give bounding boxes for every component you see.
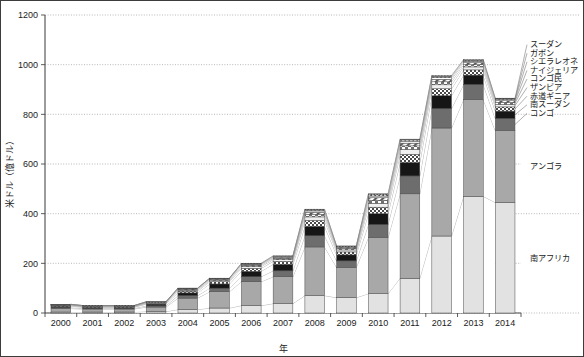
- bar-segment: [464, 75, 484, 84]
- bar-segment: [210, 308, 230, 313]
- bar-segment: [400, 139, 420, 140]
- y-axis-title: 米ドル（億ドル）: [4, 136, 15, 208]
- bar-segment: [368, 294, 388, 313]
- x-tick-label: 2014: [495, 318, 515, 328]
- x-tick-label: 2011: [400, 318, 419, 328]
- y-tick-label: 600: [23, 159, 38, 169]
- bar-segment: [464, 196, 484, 313]
- bar-segment: [464, 67, 484, 70]
- bar-segment: [495, 111, 515, 118]
- y-tick-label: 800: [23, 110, 38, 120]
- inline-series-label[interactable]: 南アフリカ: [530, 253, 570, 263]
- bar-segment: [305, 209, 325, 210]
- y-tick-label: 1000: [18, 60, 38, 70]
- bar-segment: [432, 96, 452, 109]
- bar-segment: [83, 309, 103, 312]
- bar-segment: [432, 79, 452, 81]
- bar-segment: [368, 214, 388, 225]
- bar-segment: [305, 214, 325, 216]
- x-axis-tick-labels: 2000200120022003200420052006200720082009…: [51, 318, 515, 328]
- legend-label[interactable]: コンゴ: [530, 108, 554, 118]
- x-axis-tick-marks: [45, 313, 521, 317]
- bar-segment: [495, 98, 515, 99]
- bar-segment: [432, 78, 452, 80]
- x-tick-label: 2013: [463, 318, 483, 328]
- bar-segment: [432, 236, 452, 313]
- legend-label[interactable]: コンゴ民: [530, 73, 562, 83]
- x-tick-label: 2003: [146, 318, 166, 328]
- bar-segment: [495, 202, 515, 313]
- bar-segment: [495, 119, 515, 131]
- legend: スーダンガボンシエラレオネナイジェリアコンゴ民ザンビア赤道ギニア南スーダンコンゴ: [515, 39, 578, 125]
- bar-segment: [337, 298, 357, 313]
- bar-segment: [368, 200, 388, 203]
- y-axis-tick-marks: [41, 15, 45, 313]
- x-tick-label: 2012: [432, 318, 452, 328]
- bar-segment: [464, 63, 484, 65]
- legend-label[interactable]: 南スーダン: [530, 99, 570, 109]
- x-axis-title: 年: [279, 343, 288, 354]
- chart-canvas: 020040060080010001200 200020012002200320…: [0, 0, 584, 357]
- bar-segment: [241, 306, 261, 313]
- bar-segment: [432, 82, 452, 85]
- bar-segment: [178, 291, 198, 293]
- bar-segment: [241, 277, 261, 282]
- bar-segment: [464, 70, 484, 75]
- legend-label[interactable]: 赤道ギニア: [530, 91, 570, 101]
- connector-band: [102, 309, 114, 312]
- bar-segment: [337, 246, 357, 247]
- bar-segment: [51, 309, 71, 312]
- y-tick-label: 400: [23, 209, 38, 219]
- bar-segment: [305, 226, 325, 235]
- bar-segment: [146, 304, 166, 306]
- bar-segment: [273, 304, 293, 313]
- bar-segment: [83, 306, 103, 307]
- legend-label[interactable]: ガボン: [530, 48, 554, 58]
- bar-segment: [273, 271, 293, 277]
- bar-segment: [495, 130, 515, 202]
- bar-segment: [464, 85, 484, 100]
- x-tick-label: 2007: [273, 318, 293, 328]
- bar-segment: [178, 293, 198, 296]
- bar-segment: [305, 296, 325, 313]
- bar-segment: [400, 278, 420, 313]
- y-tick-label: 1200: [18, 10, 38, 20]
- x-tick-label: 2004: [178, 318, 198, 328]
- y-axis-tick-labels: 020040060080010001200: [18, 10, 38, 318]
- bar-segment: [400, 146, 420, 149]
- bar-segment: [146, 302, 166, 303]
- bar-segment: [178, 296, 198, 298]
- bar-segment: [178, 298, 198, 309]
- bar-segment: [432, 89, 452, 96]
- connector-band: [483, 196, 495, 313]
- x-tick-label: 2005: [210, 318, 230, 328]
- bar-segment: [305, 212, 325, 214]
- bar-segment: [241, 271, 261, 276]
- bar-segment: [400, 141, 420, 143]
- bar-segment: [178, 288, 198, 289]
- bar-segment: [337, 252, 357, 255]
- bar-segment: [273, 256, 293, 257]
- bar-segment: [273, 264, 293, 270]
- bar-segment: [495, 101, 515, 103]
- bar-segment: [432, 76, 452, 77]
- bar-segment: [337, 250, 357, 252]
- bar-segment: [51, 304, 71, 305]
- x-tick-label: 2000: [51, 318, 71, 328]
- bar-segment: [241, 263, 261, 264]
- bar-segment: [210, 288, 230, 291]
- legend-label[interactable]: スーダン: [530, 39, 562, 49]
- bar-segment: [432, 128, 452, 236]
- stacked-bar-chart: 020040060080010001200 200020012002200320…: [0, 0, 584, 357]
- bar-segment: [241, 282, 261, 306]
- y-tick-label: 0: [33, 308, 38, 318]
- bar-segment: [178, 310, 198, 313]
- bar-segment: [273, 261, 293, 264]
- bar-segment: [400, 176, 420, 194]
- bar-segment: [337, 267, 357, 297]
- inline-series-label[interactable]: アンゴラ: [530, 161, 562, 171]
- inline-series-labels: アンゴラ南アフリカ: [530, 161, 570, 262]
- connector-band: [325, 296, 337, 313]
- bar-segment: [210, 284, 230, 288]
- bar-segment: [464, 99, 484, 196]
